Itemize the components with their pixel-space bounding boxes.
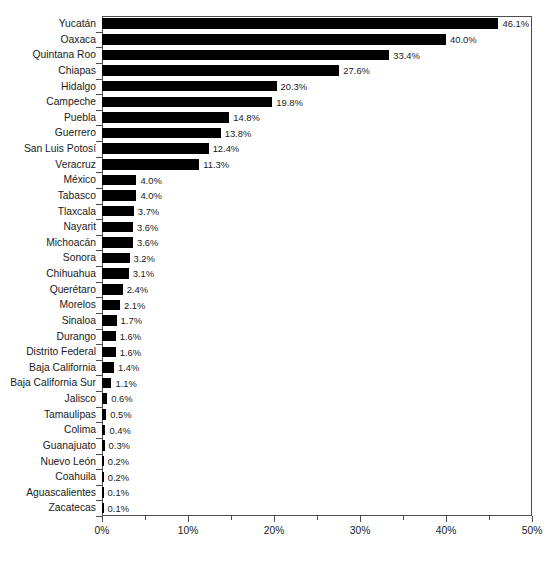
value-tick-minor bbox=[403, 516, 404, 520]
category-label: Chiapas bbox=[0, 63, 96, 79]
bar bbox=[102, 190, 136, 201]
category-label: Hidalgo bbox=[0, 79, 96, 95]
category-label: Durango bbox=[0, 329, 96, 345]
bar-row: 46.1% bbox=[102, 16, 532, 32]
category-label: Campeche bbox=[0, 94, 96, 110]
bar-row: 0.1% bbox=[102, 500, 532, 516]
bar-value-label: 1.4% bbox=[118, 360, 139, 375]
bar bbox=[102, 81, 277, 92]
value-tick-label: 0% bbox=[95, 524, 110, 537]
category-label: Tabasco bbox=[0, 188, 96, 204]
category-label: Sinaloa bbox=[0, 313, 96, 329]
value-tick-label: 20% bbox=[264, 524, 285, 537]
value-tick-label: 30% bbox=[350, 524, 371, 537]
bar-row: 1.4% bbox=[102, 360, 532, 376]
bar-value-label: 4.0% bbox=[140, 173, 161, 188]
value-tick-major bbox=[360, 516, 361, 522]
bar-row: 4.0% bbox=[102, 188, 532, 204]
bar-value-label: 1.1% bbox=[115, 376, 136, 391]
value-axis: 0%10%20%30%40%50% bbox=[102, 516, 532, 556]
bar bbox=[102, 18, 498, 29]
bar-row: 3.7% bbox=[102, 204, 532, 220]
bar-value-label: 3.1% bbox=[133, 266, 154, 281]
bar bbox=[102, 222, 133, 233]
bar bbox=[102, 112, 229, 123]
bar-row: 0.6% bbox=[102, 391, 532, 407]
category-label: Querétaro bbox=[0, 282, 96, 298]
bar bbox=[102, 97, 272, 108]
bar-value-label: 33.4% bbox=[393, 48, 420, 63]
bar bbox=[102, 456, 104, 467]
bar bbox=[102, 253, 130, 264]
bar-row: 0.2% bbox=[102, 454, 532, 470]
bar bbox=[102, 487, 104, 498]
bar-value-label: 20.3% bbox=[281, 79, 308, 94]
category-label: Coahuila bbox=[0, 469, 96, 485]
category-axis-labels: YucatánOaxacaQuintana RooChiapasHidalgoC… bbox=[0, 16, 96, 516]
bar-value-label: 40.0% bbox=[450, 32, 477, 47]
value-tick-major bbox=[446, 516, 447, 522]
category-label: Guerrero bbox=[0, 125, 96, 141]
category-label: Guanajuato bbox=[0, 438, 96, 454]
bar-row: 19.8% bbox=[102, 94, 532, 110]
bar-row: 2.1% bbox=[102, 297, 532, 313]
bar-value-label: 0.2% bbox=[108, 454, 129, 469]
category-label: Nayarit bbox=[0, 219, 96, 235]
bar-row: 0.3% bbox=[102, 438, 532, 454]
bar-row: 2.4% bbox=[102, 282, 532, 298]
value-tick-minor bbox=[145, 516, 146, 520]
bar-row: 1.7% bbox=[102, 313, 532, 329]
bar-value-label: 3.7% bbox=[138, 204, 159, 219]
bar bbox=[102, 315, 117, 326]
bar-value-label: 14.8% bbox=[233, 110, 260, 125]
bar-value-label: 27.6% bbox=[343, 63, 370, 78]
category-label: Jalisco bbox=[0, 391, 96, 407]
bar bbox=[102, 159, 199, 170]
bar bbox=[102, 284, 123, 295]
bar-value-label: 3.6% bbox=[137, 235, 158, 250]
category-label: San Luis Potosí bbox=[0, 141, 96, 157]
bar-row: 3.6% bbox=[102, 219, 532, 235]
bar-value-label: 1.6% bbox=[120, 329, 141, 344]
bar bbox=[102, 440, 105, 451]
bar-row: 40.0% bbox=[102, 32, 532, 48]
category-label: Nuevo León bbox=[0, 454, 96, 470]
bar bbox=[102, 128, 221, 139]
category-label: Distrito Federal bbox=[0, 344, 96, 360]
bar-value-label: 19.8% bbox=[276, 95, 303, 110]
bar-row: 0.5% bbox=[102, 407, 532, 423]
bar-row: 13.8% bbox=[102, 125, 532, 141]
bar-value-label: 46.1% bbox=[502, 16, 529, 31]
bar-row: 14.8% bbox=[102, 110, 532, 126]
bar bbox=[102, 362, 114, 373]
bar bbox=[102, 206, 134, 217]
bar bbox=[102, 378, 111, 389]
bar-value-label: 3.2% bbox=[134, 251, 155, 266]
bar-value-label: 0.1% bbox=[108, 501, 129, 516]
value-tick-major bbox=[532, 516, 533, 522]
bar-value-label: 11.3% bbox=[203, 157, 229, 172]
bar-value-label: 2.1% bbox=[124, 298, 145, 313]
bar bbox=[102, 503, 104, 514]
bar-chart: YucatánOaxacaQuintana RooChiapasHidalgoC… bbox=[0, 0, 556, 561]
bar-value-label: 3.6% bbox=[137, 220, 158, 235]
value-tick-label: 10% bbox=[178, 524, 199, 537]
value-tick-label: 50% bbox=[522, 524, 543, 537]
category-label: Baja California bbox=[0, 360, 96, 376]
category-label: Oaxaca bbox=[0, 32, 96, 48]
value-tick-minor bbox=[317, 516, 318, 520]
bar-value-label: 0.4% bbox=[109, 423, 130, 438]
bar-row: 3.6% bbox=[102, 235, 532, 251]
category-label: Baja California Sur bbox=[0, 375, 96, 391]
category-label: México bbox=[0, 172, 96, 188]
bar bbox=[102, 268, 129, 279]
bar bbox=[102, 175, 136, 186]
bar-row: 11.3% bbox=[102, 157, 532, 173]
bar-row: 0.4% bbox=[102, 422, 532, 438]
bars-layer: 46.1%40.0%33.4%27.6%20.3%19.8%14.8%13.8%… bbox=[102, 16, 532, 516]
bar-value-label: 0.6% bbox=[111, 391, 132, 406]
bar bbox=[102, 393, 107, 404]
bar-value-label: 1.7% bbox=[121, 313, 142, 328]
bar bbox=[102, 65, 339, 76]
bar-value-label: 4.0% bbox=[140, 188, 161, 203]
